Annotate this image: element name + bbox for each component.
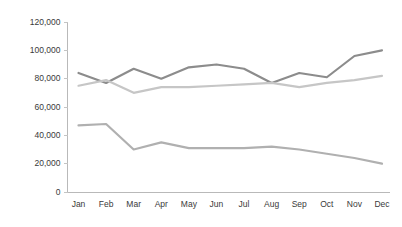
x-tick-label: Aug (264, 199, 279, 209)
x-tick-label: Jul (239, 199, 250, 209)
line-chart: 020,00040,00060,00080,000100,000120,000 … (0, 0, 402, 227)
y-tick-label: 100,000 (30, 45, 61, 55)
x-tick-label: Nov (347, 199, 363, 209)
x-tick-label: May (181, 199, 198, 209)
x-tick-label: Apr (155, 199, 168, 209)
y-tick-marks (64, 22, 68, 192)
x-tick-label: Jun (210, 199, 224, 209)
y-tick-label: 60,000 (35, 102, 61, 112)
x-tick-labels: JanFebMarAprMayJunJulAugSepOctNovDec (72, 199, 391, 209)
y-tick-labels: 020,00040,00060,00080,000100,000120,000 (30, 17, 61, 197)
y-axis-group: 020,00040,00060,00080,000100,000120,000 (30, 17, 68, 197)
x-tick-label: Sep (292, 199, 307, 209)
series-line-series-3 (79, 124, 383, 164)
x-axis-group: JanFebMarAprMayJunJulAugSepOctNovDec (68, 192, 391, 209)
y-tick-label: 0 (56, 187, 61, 197)
x-tick-label: Dec (374, 199, 390, 209)
y-tick-label: 120,000 (30, 17, 61, 27)
series-line-series-2 (79, 76, 383, 93)
y-tick-label: 20,000 (35, 158, 61, 168)
y-tick-label: 80,000 (35, 73, 61, 83)
series-group (79, 50, 383, 163)
x-tick-label: Oct (320, 199, 334, 209)
y-tick-label: 40,000 (35, 130, 61, 140)
series-line-series-1 (79, 50, 383, 83)
x-tick-label: Feb (99, 199, 114, 209)
chart-canvas: 020,00040,00060,00080,000100,000120,000 … (0, 0, 402, 227)
x-tick-label: Jan (72, 199, 86, 209)
x-tick-label: Mar (126, 199, 141, 209)
